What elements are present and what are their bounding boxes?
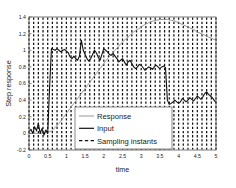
y-tick-label: 0 <box>23 130 26 136</box>
x-tick-label: 3.5 <box>156 153 163 159</box>
chart-svg: 00.511.522.533.544.55 -0.200.20.40.60.81… <box>0 0 236 188</box>
x-tick-label: 1 <box>65 153 68 159</box>
y-tick-label: 1 <box>23 47 26 53</box>
y-tick-label: -0.2 <box>17 147 26 153</box>
x-tick-label: 5 <box>215 153 218 159</box>
x-tick-label: 0 <box>28 153 31 159</box>
legend-label: Input <box>97 124 115 133</box>
x-tick-label: 2 <box>102 153 105 159</box>
chart-figure: 00.511.522.533.544.55 -0.200.20.40.60.81… <box>0 0 236 188</box>
y-tick-label: 1.2 <box>19 31 26 37</box>
x-tick-label: 0.5 <box>44 153 51 159</box>
y-tick-label: 0.4 <box>19 97 26 103</box>
legend-label: Sampling instants <box>97 137 157 146</box>
y-tick-label: 0.8 <box>19 64 26 70</box>
x-tick-label: 2.5 <box>119 153 126 159</box>
legend: ResponseInputSampling instants <box>75 107 172 149</box>
x-axis-title: time <box>116 165 130 174</box>
x-tick-label: 3 <box>140 153 143 159</box>
y-tick-label: 0.6 <box>19 80 26 86</box>
x-tick-label: 1.5 <box>81 153 88 159</box>
y-tick-label: 1.4 <box>19 14 26 20</box>
legend-label: Response <box>97 112 131 121</box>
x-tick-label: 4 <box>177 153 180 159</box>
y-tick-label: 0.2 <box>19 114 26 120</box>
y-axis-title: Step response <box>4 60 13 106</box>
x-tick-label: 4.5 <box>194 153 201 159</box>
